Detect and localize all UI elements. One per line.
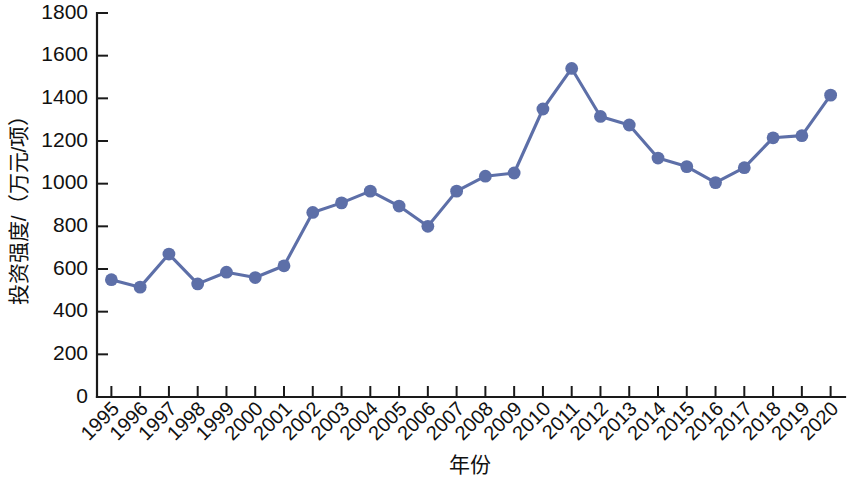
data-point-2015: 2015: 1080 (680, 160, 693, 173)
data-point-2004: 2004: 965 (364, 185, 377, 198)
y-tick-label-200: 200 (53, 341, 88, 364)
data-point-2006: 2006: 800 (421, 220, 434, 233)
line-chart-figure: 020040060080010001200140016001800 投资强度/（… (0, 0, 849, 481)
data-point-2009: 2009: 1050 (508, 167, 521, 180)
y-tick-label-1400: 1400 (41, 85, 88, 108)
data-point-1996: 1996: 515 (134, 281, 147, 294)
data-point-2001: 2001: 615 (278, 259, 291, 272)
data-point-2002: 2002: 865 (306, 206, 319, 219)
data-point-2011: 2011: 1540 (565, 62, 578, 75)
y-tick-label-1200: 1200 (41, 128, 88, 151)
data-point-2014: 2014: 1120 (652, 152, 665, 165)
data-point-2020: 2020: 1415 (824, 89, 837, 102)
y-tick-label-0: 0 (76, 384, 88, 407)
data-point-2016: 2016: 1005 (709, 176, 722, 189)
data-point-2007: 2007: 965 (450, 185, 463, 198)
data-point-2005: 2005: 895 (393, 200, 406, 213)
y-tick-label-800: 800 (53, 213, 88, 236)
data-point-2018: 2018: 1215 (767, 131, 780, 144)
data-point-2000: 2000: 560 (249, 271, 262, 284)
data-point-2008: 2008: 1035 (479, 170, 492, 183)
y-axis-title: 投资强度/（万元/项） (7, 105, 30, 306)
y-tick-label-1000: 1000 (41, 170, 88, 193)
data-point-2019: 2019: 1225 (795, 129, 808, 142)
y-tick-label-1600: 1600 (41, 42, 88, 65)
data-point-1995: 1995: 550 (105, 273, 118, 286)
y-tick-label-1800: 1800 (41, 0, 88, 23)
data-point-2010: 2010: 1350 (537, 103, 550, 116)
data-point-1998: 1998: 530 (191, 278, 204, 291)
x-axis-title: 年份 (449, 453, 491, 476)
data-point-2013: 2013: 1275 (623, 119, 636, 132)
data-point-1997: 1997: 670 (163, 248, 176, 261)
y-tick-label-400: 400 (53, 298, 88, 321)
chart-canvas: 020040060080010001200140016001800 投资强度/（… (0, 0, 849, 481)
data-point-2017: 2017: 1075 (738, 161, 751, 174)
y-tick-label-600: 600 (53, 256, 88, 279)
data-point-1999: 1999: 585 (220, 266, 233, 279)
data-point-2012: 2012: 1315 (594, 110, 607, 123)
data-point-2003: 2003: 910 (335, 196, 348, 209)
